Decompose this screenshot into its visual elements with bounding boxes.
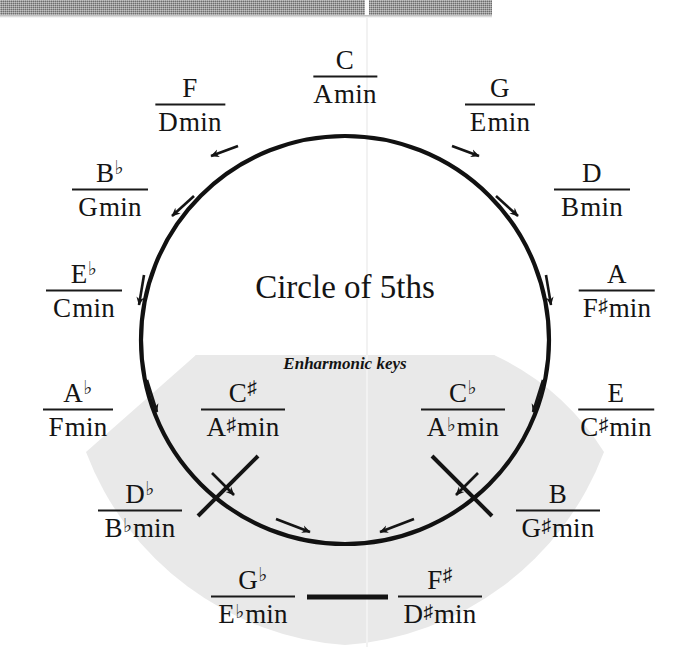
- fraction-rule-cflat: [421, 409, 505, 411]
- key-minor-fsharp: D♯min: [398, 600, 482, 628]
- major-accidental-c: [354, 44, 355, 65]
- key-major-c: C: [309, 47, 380, 75]
- major-accidental-a: [627, 258, 628, 279]
- fraction-rule-gflat: [211, 596, 295, 598]
- diagram-stage: Circle of 5ths Enharmonic keys C Amin F …: [0, 0, 687, 647]
- fraction-rule-g: [465, 104, 535, 106]
- direction-arrow-g: [452, 146, 479, 156]
- key-minor-d: Bmin: [554, 193, 630, 221]
- key-major-g: G: [465, 75, 535, 103]
- major-accidental-dflat: ♭: [145, 478, 155, 499]
- major-accidental-eflat: ♭: [88, 258, 98, 279]
- key-minor-csharp: A♯min: [201, 413, 285, 441]
- major-accidental-f: [197, 72, 198, 93]
- key-label-dflat[interactable]: D♭ B♭min: [98, 481, 182, 542]
- minor-accidental-csharp: ♯: [226, 414, 237, 435]
- key-label-cflat[interactable]: C♭ A♭min: [421, 380, 505, 441]
- fraction-rule-a: [579, 290, 655, 292]
- key-major-e: E: [576, 380, 656, 408]
- key-label-b[interactable]: B G♯min: [516, 481, 600, 542]
- key-major-f: F: [154, 75, 225, 103]
- fraction-rule-c: [313, 76, 377, 78]
- key-minor-c: Amin: [309, 80, 380, 108]
- key-minor-bflat: Gmin: [72, 193, 148, 221]
- key-minor-dflat: B♭min: [98, 514, 182, 542]
- minor-accidental-e: ♯: [598, 414, 609, 435]
- major-accidental-aflat: ♭: [83, 377, 93, 398]
- fraction-rule-eflat: [46, 290, 122, 292]
- key-label-g[interactable]: G Emin: [465, 75, 535, 136]
- major-accidental-gflat: ♭: [258, 564, 268, 585]
- key-label-gflat[interactable]: G♭ E♭min: [211, 567, 295, 628]
- circle-of-fifths-page: Circle of 5ths Enharmonic keys C Amin F …: [0, 0, 687, 647]
- key-label-f[interactable]: F Dmin: [154, 75, 225, 136]
- key-label-c[interactable]: C Amin: [309, 47, 380, 108]
- key-minor-aflat: Fmin: [43, 413, 113, 441]
- major-accidental-g: [510, 72, 511, 93]
- fraction-rule-fsharp: [398, 596, 482, 598]
- key-major-eflat: E♭: [46, 261, 122, 289]
- key-label-aflat[interactable]: A♭ Fmin: [43, 380, 113, 441]
- fraction-rule-e: [578, 409, 654, 411]
- key-minor-e: C♯min: [576, 413, 656, 441]
- key-major-b: B: [516, 481, 600, 509]
- key-major-bflat: B♭: [72, 160, 148, 188]
- fraction-rule-dflat: [98, 510, 182, 512]
- major-accidental-fsharp: ♯: [443, 564, 453, 585]
- enharmonic-keys-caption: Enharmonic keys: [283, 354, 406, 374]
- minor-accidental-cflat: ♭: [446, 414, 456, 435]
- major-accidental-b: [567, 478, 568, 499]
- key-minor-cflat: A♭min: [421, 413, 505, 441]
- key-minor-a: F♯min: [579, 294, 656, 322]
- page-title: Circle of 5ths: [255, 269, 435, 306]
- minor-accidental-dflat: ♭: [123, 515, 133, 536]
- fraction-rule-aflat: [43, 409, 113, 411]
- key-major-gflat: G♭: [211, 567, 295, 595]
- key-major-cflat: C♭: [421, 380, 505, 408]
- key-major-csharp: C♯: [201, 380, 285, 408]
- minor-accidental-gflat: ♭: [235, 601, 245, 622]
- major-accidental-e: [624, 377, 625, 398]
- key-label-csharp[interactable]: C♯ A♯min: [201, 380, 285, 441]
- key-label-bflat[interactable]: B♭ Gmin: [72, 160, 148, 221]
- fraction-rule-f: [155, 104, 225, 106]
- key-minor-f: Dmin: [154, 108, 225, 136]
- key-minor-gflat: E♭min: [211, 600, 295, 628]
- fraction-rule-d: [554, 189, 630, 191]
- key-major-d: D: [554, 160, 630, 188]
- minor-accidental-b: ♯: [541, 515, 552, 536]
- key-minor-eflat: Cmin: [46, 294, 122, 322]
- fraction-rule-b: [516, 510, 600, 512]
- key-label-a[interactable]: A F♯min: [579, 261, 656, 322]
- minor-accidental-fsharp: ♯: [423, 601, 434, 622]
- key-major-aflat: A♭: [43, 380, 113, 408]
- major-accidental-bflat: ♭: [114, 157, 124, 178]
- key-major-fsharp: F♯: [398, 567, 482, 595]
- key-major-dflat: D♭: [98, 481, 182, 509]
- key-label-e[interactable]: E C♯min: [576, 380, 656, 441]
- key-major-a: A: [579, 261, 656, 289]
- major-accidental-cflat: ♭: [467, 377, 477, 398]
- fraction-rule-csharp: [201, 409, 285, 411]
- minor-accidental-a: ♯: [598, 295, 609, 316]
- fraction-rule-bflat: [72, 189, 148, 191]
- direction-arrow-f: [211, 146, 238, 156]
- key-minor-b: G♯min: [516, 514, 600, 542]
- key-label-eflat[interactable]: E♭ Cmin: [46, 261, 122, 322]
- key-label-fsharp[interactable]: F♯ D♯min: [398, 567, 482, 628]
- key-minor-g: Emin: [465, 108, 535, 136]
- major-accidental-csharp: ♯: [247, 377, 257, 398]
- major-accidental-d: [602, 157, 603, 178]
- key-label-d[interactable]: D Bmin: [554, 160, 630, 221]
